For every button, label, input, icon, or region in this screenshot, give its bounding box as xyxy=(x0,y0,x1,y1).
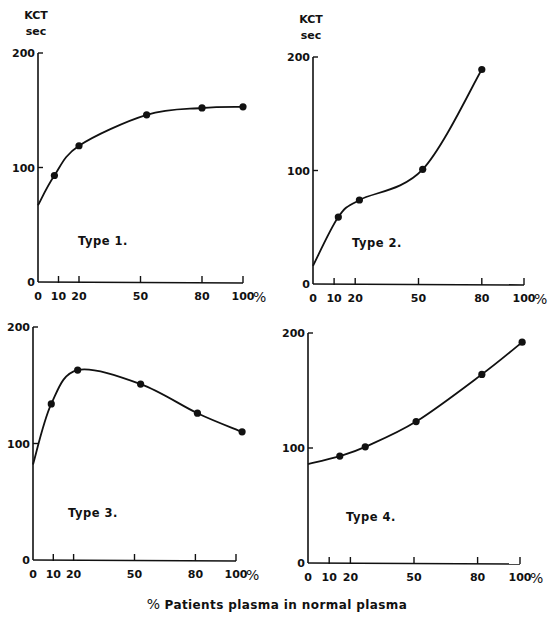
data-point xyxy=(137,380,144,387)
x-tick-label: 100 xyxy=(232,290,255,303)
chart-panel-type-3: 0100200010205080100%Type 3. xyxy=(7,321,259,583)
data-point xyxy=(335,213,342,220)
x-tick-label: 100 xyxy=(513,292,536,305)
x-tick-label: 20 xyxy=(66,568,82,581)
x-tick-label: 50 xyxy=(133,290,149,303)
x-percent-suffix: % xyxy=(246,567,259,583)
y-tick-label: 200 xyxy=(7,321,30,334)
y-tick-label: 100 xyxy=(287,165,310,178)
type-label: Type 4. xyxy=(346,510,396,524)
data-point xyxy=(356,196,363,203)
y-tick-label: 0 xyxy=(27,276,35,289)
data-point xyxy=(413,418,420,425)
percent-symbol: % xyxy=(147,596,161,612)
x-tick-label: 10 xyxy=(326,292,342,305)
x-percent-suffix: % xyxy=(534,291,547,307)
x-percent-suffix: % xyxy=(253,289,266,305)
type-label: Type 3. xyxy=(68,506,118,520)
y-tick-label: 200 xyxy=(282,327,305,340)
y-unit-label: KCT xyxy=(299,13,323,26)
caption-text: Patients plasma in normal plasma xyxy=(165,598,408,612)
x-tick-label: 80 xyxy=(474,292,490,305)
x-tick-label: 10 xyxy=(322,571,338,584)
x-tick-label: 20 xyxy=(71,290,87,303)
y-unit-label: KCT xyxy=(24,9,48,22)
x-tick-label: 50 xyxy=(406,571,422,584)
data-curve xyxy=(308,342,522,464)
data-point xyxy=(75,142,82,149)
x-tick-label: 80 xyxy=(188,568,204,581)
x-tick-label: 0 xyxy=(309,292,317,305)
data-point xyxy=(239,103,246,110)
x-tick-label: 80 xyxy=(470,571,486,584)
data-point xyxy=(519,339,526,346)
y-tick-label: 0 xyxy=(22,554,30,567)
figure-canvas: 0100200010205080100%KCTsecType 1.0100200… xyxy=(0,0,554,624)
data-point xyxy=(238,428,245,435)
x-tick-label: 20 xyxy=(348,292,364,305)
data-point xyxy=(194,410,201,417)
x-tick-label: 100 xyxy=(509,571,532,584)
x-tick-label: 100 xyxy=(225,568,248,581)
x-tick-label: 0 xyxy=(34,290,42,303)
chart-panel-type-4: 0100200010205080100%Type 4. xyxy=(282,327,543,586)
y-tick-label: 200 xyxy=(287,51,310,64)
data-point xyxy=(74,367,81,374)
type-label: Type 2. xyxy=(352,236,402,250)
y-tick-label: 0 xyxy=(302,278,310,291)
data-point xyxy=(419,166,426,173)
y-unit-sublabel: sec xyxy=(26,25,47,38)
data-curve xyxy=(38,107,243,205)
x-axis-caption: %Patients plasma in normal plasma xyxy=(0,596,554,612)
data-point xyxy=(336,452,343,459)
x-percent-suffix: % xyxy=(530,570,543,586)
x-tick-label: 20 xyxy=(343,571,359,584)
chart-panel-type-2: 0100200010205080100%KCTsecType 2. xyxy=(287,13,547,307)
data-point xyxy=(362,443,369,450)
y-tick-label: 100 xyxy=(7,438,30,451)
x-tick-label: 10 xyxy=(51,290,67,303)
x-tick-label: 0 xyxy=(304,571,312,584)
x-tick-label: 80 xyxy=(194,290,210,303)
data-point xyxy=(51,172,58,179)
x-tick-label: 50 xyxy=(127,568,143,581)
x-tick-label: 50 xyxy=(411,292,427,305)
y-tick-label: 200 xyxy=(12,47,35,60)
data-point xyxy=(478,371,485,378)
x-tick-label: 10 xyxy=(46,568,62,581)
type-label: Type 1. xyxy=(78,234,128,248)
y-tick-label: 0 xyxy=(297,557,305,570)
chart-panel-type-1: 0100200010205080100%KCTsecType 1. xyxy=(12,9,266,305)
y-tick-label: 100 xyxy=(12,162,35,175)
data-point xyxy=(143,111,150,118)
y-unit-sublabel: sec xyxy=(301,29,322,42)
data-point xyxy=(478,66,485,73)
y-tick-label: 100 xyxy=(282,442,305,455)
data-point xyxy=(198,104,205,111)
x-tick-label: 0 xyxy=(29,568,37,581)
data-point xyxy=(48,400,55,407)
